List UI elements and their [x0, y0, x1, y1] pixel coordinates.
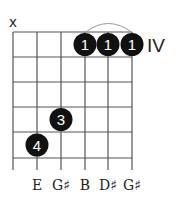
muted-string-x-mark: x [9, 13, 17, 30]
note-label: E [32, 177, 42, 193]
note-label: G♯ [52, 177, 70, 193]
finger-dot: 1 [74, 33, 97, 56]
finger-number: 4 [33, 137, 41, 154]
fret-position-label: IV [147, 35, 165, 56]
barre-arc [85, 24, 132, 33]
note-label: D♯ [99, 177, 117, 193]
finger-dot: 1 [97, 33, 120, 56]
finger-number: 1 [81, 36, 89, 53]
finger-number: 1 [128, 36, 136, 53]
note-labels: EG♯BD♯G♯ [32, 177, 141, 193]
finger-dot: 3 [50, 108, 73, 131]
finger-number: 3 [57, 111, 65, 128]
note-label: B [80, 177, 90, 193]
note-label: G♯ [123, 177, 141, 193]
finger-dot: 4 [26, 134, 49, 157]
barre-arc-line [85, 24, 132, 33]
chord-diagram: 11134 x IV EG♯BD♯G♯ [0, 0, 176, 210]
finger-dot: 1 [121, 33, 144, 56]
finger-number: 1 [104, 36, 112, 53]
